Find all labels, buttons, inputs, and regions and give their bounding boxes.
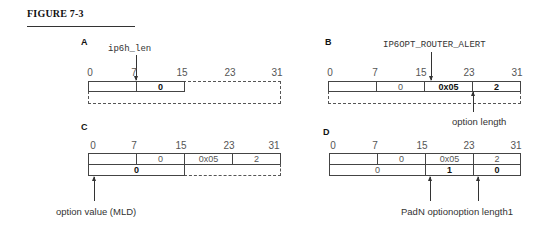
panel-d-label: D	[323, 127, 330, 137]
bit-23: 23	[224, 67, 235, 78]
panel-b-cell-option-type: 0x05	[424, 81, 473, 92]
bit-7: 7	[131, 140, 137, 151]
bit-15: 15	[175, 140, 186, 151]
bit-31: 31	[271, 67, 282, 78]
bit-0: 0	[87, 67, 93, 78]
panel-b-cell-0	[328, 81, 377, 92]
panel-d-cell-padn-length: 0	[473, 164, 521, 176]
panel-a-label: A	[81, 37, 88, 47]
option-length-note: option length	[452, 116, 506, 127]
bit-31: 31	[510, 140, 521, 151]
bit-7: 7	[372, 140, 378, 151]
padn-note: PadN optionoption length1	[401, 206, 513, 217]
panel-b-cell-1: 0	[376, 81, 425, 92]
bit-0: 0	[327, 67, 333, 78]
panel-c-cell-option-value: 0	[88, 164, 185, 176]
panel-c-dashed-extent	[184, 164, 281, 176]
panel-a-cell-ip6h-len: 0	[136, 81, 185, 92]
panel-a-cell-0	[88, 81, 137, 92]
ip6h-len-label: ip6h_len	[108, 44, 151, 54]
panel-b-cell-option-length: 2	[472, 81, 521, 92]
bit-0: 0	[330, 140, 336, 151]
bit-23: 23	[463, 67, 474, 78]
panel-d-cell-option-value: 0	[329, 164, 426, 176]
bit-31: 31	[268, 140, 279, 151]
router-alert-arrow-icon	[431, 52, 432, 80]
bit-7: 7	[131, 67, 137, 78]
padn-length-arrow-icon	[478, 177, 479, 201]
bit-15: 15	[416, 140, 427, 151]
panel-d-cell-padn-type: 1	[425, 164, 474, 176]
title-underline	[27, 26, 135, 27]
panel-c-label: C	[81, 122, 88, 132]
router-alert-label: IP6OPT_ROUTER_ALERT	[383, 40, 486, 50]
panel-b-label: B	[325, 37, 332, 47]
bit-7: 7	[372, 67, 378, 78]
option-value-arrow-icon	[94, 177, 95, 201]
padn-option-arrow-icon	[430, 177, 431, 201]
bit-23: 23	[463, 140, 474, 151]
option-length-arrow-icon	[473, 92, 474, 112]
figure-title: FIGURE 7-3	[27, 8, 84, 19]
bit-23: 23	[223, 140, 234, 151]
option-value-note: option value (MLD)	[56, 206, 136, 217]
bit-31: 31	[511, 67, 522, 78]
bit-0: 0	[90, 140, 96, 151]
bit-15: 15	[176, 67, 187, 78]
bit-15: 15	[415, 67, 426, 78]
